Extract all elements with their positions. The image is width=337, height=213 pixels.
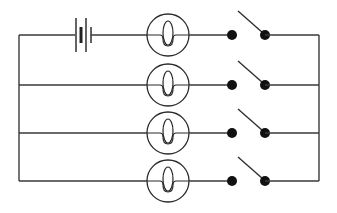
lamp-icon [147,14,189,56]
lamp-icon [147,160,189,202]
branch-3 [19,109,319,154]
battery-icon [76,18,91,52]
switch-icon[interactable] [227,61,270,90]
lamp-icon [147,112,189,154]
switch-icon[interactable] [227,109,270,138]
circuit-diagram [0,0,337,213]
branch-2 [19,61,319,106]
switch-icon[interactable] [227,157,270,186]
branch-4 [19,157,319,202]
switch-icon[interactable] [227,11,270,40]
branch-1 [19,11,319,56]
lamp-icon [147,64,189,106]
